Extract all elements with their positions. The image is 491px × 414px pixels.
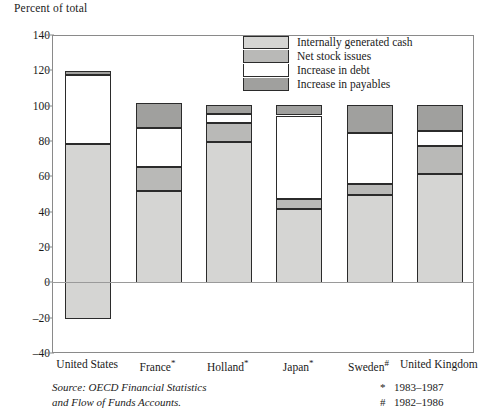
bar-segment-stock[interactable]: [136, 167, 182, 192]
bar-segment-cash[interactable]: [276, 209, 322, 283]
legend-swatch-pay: [243, 78, 289, 91]
bar-segment-debt[interactable]: [276, 116, 322, 199]
y-tick-label: 40: [0, 206, 50, 218]
bar-segment-debt[interactable]: [417, 131, 463, 145]
bar-segment-pay[interactable]: [276, 105, 322, 116]
y-tick-label: –40: [0, 347, 50, 359]
bar-segment-cash[interactable]: [206, 142, 252, 283]
legend-item-stock[interactable]: Net stock issues: [243, 49, 413, 63]
legend-label-debt: Increase in debt: [297, 64, 370, 77]
bar-segment-pay[interactable]: [417, 105, 463, 132]
legend-swatch-cash: [243, 36, 289, 49]
bar-france[interactable]: [136, 36, 182, 354]
bar-segment-debt[interactable]: [136, 128, 182, 167]
footnote-symbol: *: [380, 380, 394, 395]
y-tick-label: 80: [0, 135, 50, 147]
bar-segment-stock[interactable]: [417, 146, 463, 174]
x-label-japan: Japan*: [283, 358, 314, 373]
legend-item-cash[interactable]: Internally generated cash: [243, 35, 413, 49]
bar-united-states[interactable]: [65, 36, 111, 354]
x-label-united-kingdom: United Kingdom: [400, 358, 478, 370]
legend: Internally generated cashNet stock issue…: [243, 35, 413, 91]
bar-segment-pay[interactable]: [206, 105, 252, 114]
footnote-text: 1982–1986: [394, 395, 444, 410]
bar-segment-cash[interactable]: [136, 191, 182, 283]
footnote-row: *1983–1987: [380, 380, 444, 395]
bar-segment-pay[interactable]: [347, 105, 393, 133]
bar-segment-pay[interactable]: [65, 71, 111, 75]
zero-line: [52, 282, 474, 283]
bar-segment-cash[interactable]: [347, 195, 393, 283]
legend-item-debt[interactable]: Increase in debt: [243, 63, 413, 77]
y-tick-label: 120: [0, 64, 50, 76]
bar-segment-cash[interactable]: [417, 174, 463, 284]
footnote-row: #1982–1986: [380, 395, 444, 410]
bar-united-kingdom[interactable]: [417, 36, 463, 354]
bar-segment-stock[interactable]: [276, 199, 322, 210]
legend-swatch-debt: [243, 64, 289, 77]
x-label-holland: Holland*: [207, 358, 249, 373]
x-label-united-states: United States: [56, 358, 118, 370]
bar-segment-stock[interactable]: [347, 184, 393, 195]
source-line-1: Source: OECD Financial Statistics: [52, 380, 207, 395]
source-note: Source: OECD Financial Statistics and Fl…: [52, 380, 207, 409]
bar-segment-stock[interactable]: [206, 123, 252, 142]
bar-segment-cash[interactable]: [65, 144, 111, 319]
footnote-symbol: #: [380, 395, 394, 410]
footnote-text: 1983–1987: [394, 380, 444, 395]
legend-label-pay: Increase in payables: [297, 78, 390, 91]
bar-segment-pay[interactable]: [136, 103, 182, 128]
bar-segment-debt[interactable]: [65, 75, 111, 144]
y-tick-label: 100: [0, 100, 50, 112]
legend-label-cash: Internally generated cash: [297, 36, 413, 49]
legend-label-stock: Net stock issues: [297, 50, 371, 63]
bar-segment-debt[interactable]: [347, 133, 393, 184]
footnote-group: *1983–1987#1982–1986: [380, 380, 444, 409]
source-line-2: and Flow of Funds Accounts.: [52, 395, 207, 410]
x-label-sweden: Sweden#: [348, 358, 389, 373]
bar-segment-debt[interactable]: [206, 114, 252, 123]
y-tick-label: 60: [0, 170, 50, 182]
y-tick-label: 140: [0, 29, 50, 41]
legend-item-pay[interactable]: Increase in payables: [243, 77, 413, 91]
figure: Percent of total 140120100806040200–20–4…: [0, 0, 491, 414]
y-tick-label: –20: [0, 312, 50, 324]
axis-title: Percent of total: [14, 2, 87, 14]
legend-swatch-stock: [243, 50, 289, 63]
x-label-france: France*: [140, 358, 176, 373]
y-tick-label: 0: [0, 276, 50, 288]
y-tick-label: 20: [0, 241, 50, 253]
